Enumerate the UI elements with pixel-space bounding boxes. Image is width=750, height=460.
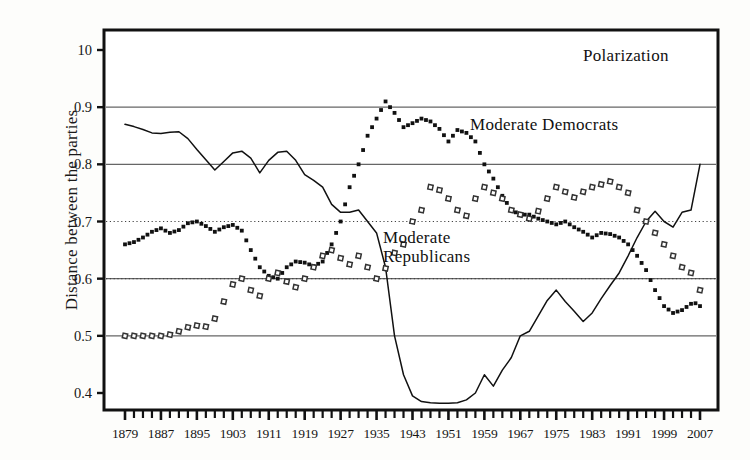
- x-tick-label: 1903: [220, 426, 246, 442]
- x-tick-label: 1879: [112, 426, 138, 442]
- x-tick-label: 1935: [363, 426, 389, 442]
- y-tick-label: 0.5: [74, 327, 92, 344]
- chart-figure: Distance between the parties 0.40.50.60.…: [0, 0, 750, 460]
- x-tick-label: 1911: [256, 426, 282, 442]
- y-tick-label: 0.7: [74, 213, 92, 230]
- annotation-moderate-republicans-line1: Moderate: [383, 228, 513, 247]
- y-tick-label: 10: [78, 42, 93, 59]
- annotation-polarization: Polarization: [583, 46, 669, 66]
- x-tick-label: 2007: [687, 426, 713, 442]
- x-tick-label: 1959: [471, 426, 497, 442]
- y-tick-label: 0.9: [74, 99, 92, 116]
- annotation-moderate-republicans: Moderate Republicans: [383, 228, 513, 266]
- x-tick-label: 1951: [435, 426, 461, 442]
- x-tick-label: 1991: [615, 426, 641, 442]
- x-tick-label: 1887: [148, 426, 174, 442]
- x-tick-label: 1967: [507, 426, 533, 442]
- x-tick-label: 1919: [292, 426, 318, 442]
- annotation-moderate-democrats: Moderate Democrats: [470, 115, 618, 135]
- x-tick-label: 1943: [399, 426, 425, 442]
- y-tick-label: 0.8: [74, 156, 92, 173]
- annotation-moderate-republicans-line2: Republicans: [383, 247, 513, 266]
- chart-canvas: [0, 0, 750, 460]
- x-tick-label: 1895: [184, 426, 210, 442]
- y-tick-label: 0.4: [74, 385, 92, 402]
- y-tick-label: 0.6: [74, 270, 92, 287]
- x-tick-label: 1983: [579, 426, 605, 442]
- x-tick-label: 1975: [543, 426, 569, 442]
- x-tick-label: 1999: [651, 426, 677, 442]
- x-tick-label: 1927: [328, 426, 354, 442]
